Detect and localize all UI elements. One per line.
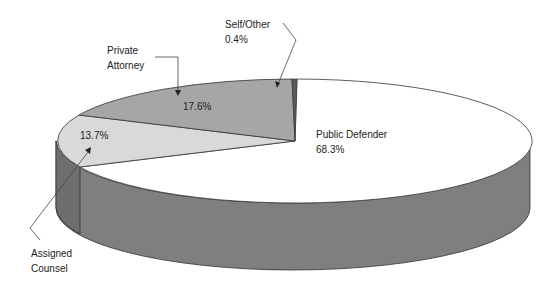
label-private-attorney-line1: Private bbox=[107, 43, 144, 58]
pct-private-attorney: 17.6% bbox=[183, 99, 211, 114]
label-public-defender-pct: 68.3% bbox=[316, 142, 387, 157]
leader-private-attorney bbox=[155, 57, 178, 92]
label-private-attorney-line2: Attorney bbox=[107, 58, 144, 73]
label-self-other: Self/Other 0.4% bbox=[225, 17, 270, 47]
label-assigned-counsel-line2: Counsel bbox=[31, 261, 72, 276]
label-public-defender: Public Defender 68.3% bbox=[316, 127, 387, 157]
label-assigned-counsel: Assigned Counsel bbox=[31, 246, 72, 276]
label-self-other-pct: 0.4% bbox=[225, 32, 270, 47]
leader-self-other bbox=[278, 23, 296, 84]
pct-assigned-counsel: 13.7% bbox=[80, 128, 108, 143]
label-self-other-name: Self/Other bbox=[225, 17, 270, 32]
pie-chart-3d bbox=[0, 0, 555, 290]
label-public-defender-name: Public Defender bbox=[316, 127, 387, 142]
label-private-attorney: Private Attorney bbox=[107, 43, 144, 73]
label-assigned-counsel-line1: Assigned bbox=[31, 246, 72, 261]
